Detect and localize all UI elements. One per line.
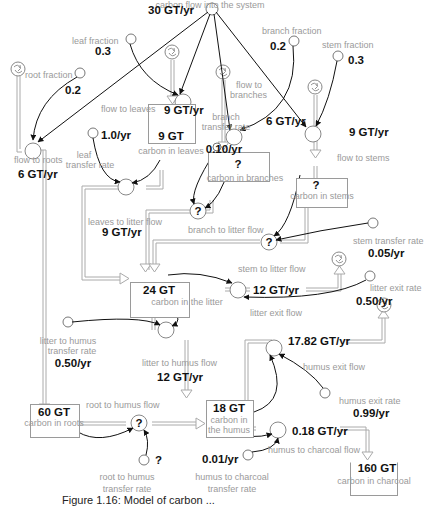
humus-exit-value: 17.82 GT/yr [288,335,350,347]
humus-exit-label: humus exit flow [303,362,365,372]
root-to-humus-rate-label-2: transfer rate [103,484,152,494]
root-fraction-value: 0.2 [65,84,81,96]
stem-transfer-rate-value: 0.05/yr [368,247,404,259]
flow-to-branches-value: 6 GT/yr [266,115,306,127]
stock-branches-label: carbon in branches [207,173,284,183]
stem-transfer-rate-label: stem transfer rate [353,236,424,246]
litter-to-humus-rate-label-1: litter to humus [40,336,97,346]
stock-charcoal-value: 160 GT [358,462,396,474]
litter-to-humus-rate-value: 0.50/yr [55,357,91,369]
humus-to-charcoal-rate-label-2: transfer rate [208,484,257,494]
leaf-fraction-value: 0.3 [95,45,111,57]
branch-transfer-rate-label-1: branch [212,112,240,122]
root-to-humus-rate-value: ? [155,454,162,466]
root-to-humus-rate-label-1: root to humus [99,472,154,482]
humus-exit-rate-label: humus exit rate [339,396,401,406]
leaf-transfer-rate-label-1: leaf [77,150,92,160]
stock-leaves-value: 9 GT [158,130,184,142]
flow-to-branches-label-2: branches [230,90,267,100]
flow-to-stems-label: flow to stems [337,153,390,163]
stock-branches-value: ? [234,158,241,170]
branch-transfer-rate-value: 0.10/yr [206,143,242,155]
stock-humus-label-2: the humus [208,425,250,435]
flow-to-leaves-value: 9 GT/yr [164,104,204,116]
inflow-value: 30 GT/yr [148,4,194,16]
stem-fraction-label: stem fraction [322,40,374,50]
stock-litter-label: carbon in the litter [151,297,223,307]
root-to-humus-value: ? [135,417,142,429]
figure-caption: Figure 1.16: Model of carbon ... [62,494,215,506]
flow-to-roots-value: 6 GT/yr [18,168,58,180]
stock-stems-value: ? [312,179,319,191]
leaf-transfer-rate-label-2: transfer rate [66,160,115,170]
branch-fraction-label: branch fraction [262,26,322,36]
flow-to-roots-label: flow to roots [14,155,63,165]
root-to-humus-label: root to humus flow [86,400,160,410]
litter-exit-value: 12 GT/yr [253,284,299,296]
branch-transfer-rate-label-2: transfer rate [202,122,251,132]
stock-charcoal-label: carbon in charcoal [337,476,411,486]
branch-to-litter-label: branch to litter flow [188,225,264,235]
flow-to-leaves-label: flow to leaves [101,104,156,114]
branch-to-litter-value: ? [194,205,201,217]
stock-roots-value: 60 GT [38,406,70,418]
litter-exit-label: litter exit flow [250,308,302,318]
root-fraction-label: root fraction [25,70,73,80]
humus-to-charcoal-label: humus to charcoal flow [268,445,360,455]
humus-to-charcoal-value: 0.18 GT/yr [292,425,348,437]
branch-fraction-value: 0.2 [270,40,286,52]
stock-humus-value: 18 GT [213,402,245,414]
litter-exit-rate-label: litter exit rate [370,283,422,293]
stock-leaves-label: carbon in leaves [138,146,204,156]
stem-to-litter-value: ? [265,236,272,248]
stock-humus-label-1: carbon in [210,415,247,425]
humus-to-charcoal-rate-value: 0.01/yr [202,453,238,465]
humus-to-charcoal-rate-label-1: humus to charcoal [195,472,269,482]
litter-to-humus-rate-label-2: transfer rate [48,346,97,356]
leaf-transfer-rate-value: 1.0/yr [101,129,131,141]
flow-to-stems-value: 9 GT/yr [349,126,389,138]
stem-fraction-value: 0.3 [348,54,364,66]
litter-to-humus-value: 12 GT/yr [157,371,203,383]
stem-to-litter-label: stem to litter flow [238,264,306,274]
humus-exit-rate-value: 0.99/yr [353,407,389,419]
stock-litter-value: 24 GT [143,284,175,296]
stock-stems-label: carbon in stems [290,191,354,201]
stock-roots-label: carbon in roots [24,418,84,428]
leaves-to-litter-value: 9 GT/yr [102,226,142,238]
flow-to-branches-label-1: flow to [236,80,262,90]
litter-exit-rate-value: 0.50/yr [356,295,392,307]
litter-to-humus-label: litter to humus flow [142,358,217,368]
